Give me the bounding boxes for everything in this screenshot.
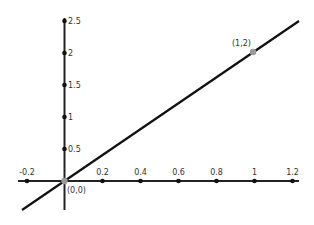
y-tick-label: 1 <box>68 113 73 122</box>
x-tick-label: -0.2 <box>19 168 35 177</box>
y-tick-label: 2.5 <box>68 17 81 26</box>
x-tick-label: 0.6 <box>172 168 185 177</box>
x-tick-label: 0.8 <box>210 168 223 177</box>
x-tick-label: 0.2 <box>96 168 109 177</box>
point-label-1-2: (1,2) <box>232 39 251 48</box>
y-tick-labels: 0.5 1 1.5 2 2.5 <box>68 17 81 154</box>
point-label-origin: (0,0) <box>67 186 86 195</box>
plot-area: -0.2 0.2 0.4 0.6 0.8 1 1.2 0.5 1 1.5 2 2… <box>0 0 314 225</box>
y-tick-label: 0.5 <box>68 145 81 154</box>
x-tick-label: 1.2 <box>286 168 299 177</box>
point-1-2 <box>250 49 256 55</box>
y-tick-label: 2 <box>68 49 73 58</box>
chart: -0.2 0.2 0.4 0.6 0.8 1 1.2 0.5 1 1.5 2 2… <box>0 0 314 225</box>
point-origin <box>61 178 67 184</box>
x-tick-labels: -0.2 0.2 0.4 0.6 0.8 1 1.2 <box>19 168 299 177</box>
y-tick-label: 1.5 <box>68 81 81 90</box>
x-tick-label: 1 <box>252 168 257 177</box>
x-tick-label: 0.4 <box>134 168 147 177</box>
